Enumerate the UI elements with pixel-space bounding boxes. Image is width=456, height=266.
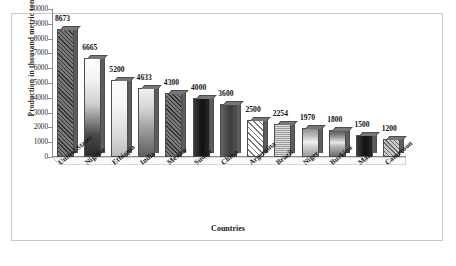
bar-value-label: 2500 — [238, 105, 268, 114]
bar-top-face — [305, 125, 326, 129]
bar-value-label: 4300 — [156, 78, 186, 87]
bar-top-face — [87, 55, 108, 59]
x-axis-tick-labels: United StatesNigeriaEthiopiaIndiaMexicoS… — [52, 160, 412, 222]
bar-value-label: 1970 — [293, 113, 323, 122]
bar-value-label: 1500 — [347, 120, 377, 129]
bar-value-label: 1800 — [320, 115, 350, 124]
y-axis-tick-label: 0 — [18, 153, 48, 161]
y-axis-tick-label: 5000 — [18, 79, 48, 87]
y-axis-tick-label: 3000 — [18, 109, 48, 117]
bar-value-label: 2254 — [265, 109, 295, 118]
y-axis-tick-label: 4000 — [18, 94, 48, 102]
bar-value-label: 3600 — [211, 89, 241, 98]
y-axis-tick-label: 10000 — [18, 5, 48, 13]
plot-area: 1000090008000700060005000400030002000100… — [52, 9, 406, 157]
bar-value-label: 4000 — [184, 83, 214, 92]
bar[interactable] — [57, 29, 74, 157]
bar-top-face — [60, 26, 81, 30]
chart-figure: Production in thousand metric tons 10000… — [0, 0, 456, 266]
y-axis-tick-label: 2000 — [18, 123, 48, 131]
bar-value-label: 8673 — [48, 14, 78, 23]
bar-value-label: 5200 — [102, 65, 132, 74]
y-axis-tick-label: 6000 — [18, 64, 48, 72]
bar-value-label: 6665 — [75, 43, 105, 52]
bar-series: 8673666552004633430040003600250022541970… — [52, 9, 406, 157]
y-axis-tick-label: 1000 — [18, 138, 48, 146]
y-axis-tick-label: 8000 — [18, 35, 48, 43]
x-axis-title: Countries — [0, 224, 456, 233]
bar-value-label: 1200 — [374, 124, 404, 133]
bar-value-label: 4633 — [129, 73, 159, 82]
y-axis-tick-label: 7000 — [18, 49, 48, 57]
bar[interactable] — [138, 88, 155, 157]
y-axis-tick-label: 9000 — [18, 20, 48, 28]
y-axis-tick-labels: 1000090008000700060005000400030002000100… — [18, 9, 48, 157]
